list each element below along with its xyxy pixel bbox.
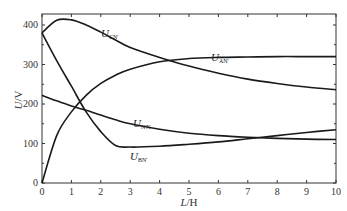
series-line-npn: [42, 95, 336, 139]
x-tick-label: 1: [69, 186, 74, 197]
x-tick-label: 2: [98, 186, 103, 197]
x-tick-label: 10: [331, 186, 341, 197]
y-tick-label: 300: [23, 59, 38, 70]
y-tick-label: 100: [23, 138, 38, 149]
x-axis-ticks: 012345678910: [40, 14, 342, 197]
x-tick-label: 9: [304, 186, 309, 197]
x-tick-label: 6: [216, 186, 221, 197]
series-line-bnp: [42, 33, 336, 147]
y-tick-label: 0: [33, 177, 38, 188]
line-chart: 012345678910 0100200300400 L/H U/V UCN' …: [0, 0, 347, 211]
plot-frame: [42, 14, 336, 183]
series-label-uan: UAN': [211, 51, 229, 64]
series-label-ubn: UBN': [130, 150, 147, 163]
series-lines: [42, 19, 336, 183]
x-tick-label: 8: [275, 186, 280, 197]
x-tick-label: 4: [157, 186, 162, 197]
y-axis-ticks: 0100200300400: [23, 19, 336, 188]
series-line-anp: [42, 57, 336, 183]
x-tick-label: 0: [40, 186, 45, 197]
series-label-unn: UN'N: [133, 117, 151, 130]
y-tick-label: 200: [23, 98, 38, 109]
x-tick-label: 3: [128, 186, 133, 197]
series-line-cnp: [42, 19, 336, 90]
x-tick-label: 7: [245, 186, 250, 197]
x-axis-title: L/H: [179, 196, 197, 208]
series-label-ucn: UCN': [101, 27, 118, 40]
y-axis-title: U/V: [12, 90, 24, 109]
y-tick-label: 400: [23, 19, 38, 30]
